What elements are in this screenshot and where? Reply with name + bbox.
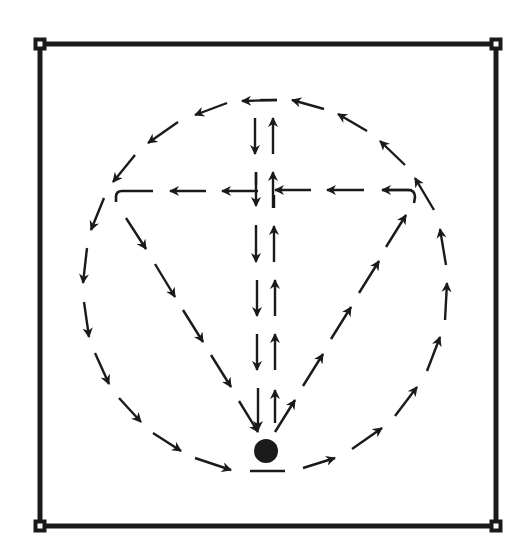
- right-diagonal-arrow-icon: [359, 261, 379, 293]
- bar-end-hooks: [116, 190, 415, 203]
- corner-marker-hole-bottom-left: [38, 524, 43, 529]
- right-diagonal-arrow-icon: [303, 354, 323, 386]
- left-diagonal-arrow-icon: [155, 264, 175, 297]
- circle-right-top-arrow-icon: [338, 114, 367, 131]
- circle-right-top-arrow-icon: [292, 100, 324, 109]
- center-dot: [250, 439, 285, 471]
- right-diagonal-arrow-icon: [386, 215, 406, 247]
- circle-left-arrow-icon: [83, 248, 87, 283]
- left-diagonal-arrow-icon: [183, 310, 203, 342]
- circle-right-arrow-icon: [415, 178, 434, 210]
- corner-marker-hole-top-left: [38, 42, 43, 47]
- circle-right-arrow-icon: [303, 458, 335, 468]
- circle-left-arrow-icon: [95, 353, 109, 384]
- circle-right-arrow-icon: [352, 428, 382, 449]
- left-diagonal-arrow-icon: [126, 218, 146, 249]
- circle-right-top-arrow-icon: [380, 141, 405, 165]
- arrow-paths: [83, 100, 447, 470]
- circle-left-top-arrow-icon: [195, 103, 227, 115]
- circle-left-top-arrow-icon: [148, 122, 178, 143]
- diagram-canvas: [0, 0, 521, 560]
- left-diagonal-arrow-icon: [211, 355, 231, 387]
- path-diagram: [0, 0, 521, 560]
- bead-dot-icon: [254, 439, 278, 463]
- circle-right-arrow-icon: [427, 337, 440, 371]
- circle-left-arrow-icon: [119, 398, 141, 422]
- circle-left-arrow-icon: [153, 433, 181, 451]
- corner-marker-hole-bottom-right: [494, 524, 499, 529]
- circle-right-arrow-icon: [440, 229, 446, 265]
- left-hook: [116, 191, 153, 202]
- circle-left-arrow-icon: [91, 198, 104, 230]
- circle-left-top-arrow-icon: [113, 155, 135, 182]
- circle-right-arrow-icon: [395, 387, 417, 416]
- corner-marker-hole-top-right: [494, 42, 499, 47]
- circle-left-top-arrow-icon: [242, 100, 277, 101]
- right-diagonal-arrow-icon: [331, 307, 351, 339]
- right-diagonal-arrow-icon: [275, 400, 295, 432]
- circle-right-arrow-icon: [445, 283, 447, 320]
- circle-left-arrow-icon: [84, 302, 89, 337]
- left-diagonal-arrow-icon: [239, 401, 258, 432]
- right-hook: [382, 190, 415, 203]
- circle-left-arrow-icon: [195, 458, 231, 470]
